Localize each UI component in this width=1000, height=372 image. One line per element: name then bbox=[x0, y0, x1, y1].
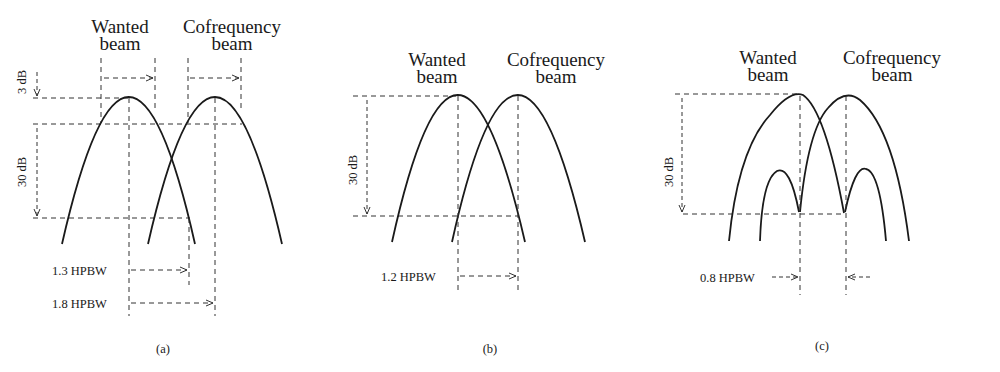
wanted-main-lobe bbox=[729, 94, 844, 241]
cofreq-sidelobe bbox=[845, 169, 886, 241]
30db-label: 30 dB bbox=[346, 155, 360, 185]
beam-isolation-diagram: Wanted beam Cofrequency beam 3 dB 30 dB … bbox=[0, 0, 1000, 372]
sep-0-8-label: 0.8 HPBW bbox=[700, 271, 755, 285]
panel-b: Wanted beam Cofrequency beam 30 dB 1.2 H… bbox=[346, 49, 606, 356]
caption-a: (a) bbox=[156, 342, 170, 356]
wanted-sidelobe bbox=[760, 170, 799, 241]
30db-label: 30 dB bbox=[662, 157, 676, 187]
cofreq-beam-label-line2: beam bbox=[871, 64, 912, 85]
wanted-beam-label-line2: beam bbox=[747, 64, 788, 85]
sep-1-8-label: 1.8 HPBW bbox=[52, 297, 107, 311]
wanted-beam-label-line2: beam bbox=[416, 66, 457, 87]
caption-b: (b) bbox=[483, 342, 498, 356]
panel-a: Wanted beam Cofrequency beam 3 dB 30 dB … bbox=[15, 16, 282, 356]
caption-c: (c) bbox=[815, 339, 829, 353]
panel-c: Wanted beam Cofrequency beam 30 dB 0.8 H… bbox=[662, 47, 942, 353]
sep-1-3-label: 1.3 HPBW bbox=[52, 264, 107, 278]
wanted-beam-label-line2: beam bbox=[99, 33, 140, 54]
cofreq-beam-label-line2: beam bbox=[211, 33, 252, 54]
3db-label: 3 dB bbox=[15, 70, 29, 94]
30db-label: 30 dB bbox=[15, 157, 29, 187]
cofreq-beam-label-line2: beam bbox=[535, 66, 576, 87]
sep-1-2-label: 1.2 HPBW bbox=[381, 270, 436, 284]
cofreq-main-lobe bbox=[800, 96, 909, 242]
